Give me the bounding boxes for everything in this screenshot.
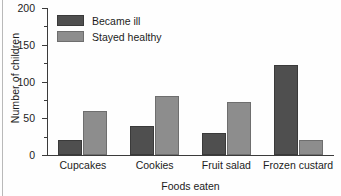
y-tick-100: 100 — [42, 82, 47, 83]
y-tick-label-50: 50 — [23, 113, 35, 124]
y-minor-tick-75 — [44, 100, 47, 101]
legend-item-stayed-healthy: Stayed healthy — [57, 30, 161, 43]
bar-cupcakes-stayed-healthy — [83, 111, 107, 155]
bar-fruit-salad-stayed-healthy — [227, 102, 251, 155]
y-tick-label-200: 200 — [17, 3, 35, 14]
y-minor-tick-175 — [44, 26, 47, 27]
legend-label-stayed-healthy: Stayed healthy — [92, 31, 161, 43]
y-minor-tick-25 — [44, 137, 47, 138]
legend-item-became-ill: Became ill — [57, 14, 161, 27]
legend-swatch-stayed-healthy — [57, 31, 84, 42]
x-label-cookies: Cookies — [136, 159, 174, 171]
bar-cookies-stayed-healthy — [155, 96, 179, 155]
y-tick-label-100: 100 — [17, 76, 35, 87]
x-label-frozen-custard: Frozen custard — [263, 159, 333, 171]
y-tick-50: 50 — [42, 118, 47, 119]
image-left-border — [2, 0, 3, 196]
y-tick-200: 200 — [42, 8, 47, 9]
bar-cupcakes-became-ill — [58, 140, 82, 155]
legend-label-became-ill: Became ill — [92, 15, 140, 27]
legend-swatch-became-ill — [57, 15, 84, 26]
bar-frozen-custard-stayed-healthy — [299, 140, 323, 155]
y-tick-0: 0 — [42, 155, 47, 156]
bar-cookies-became-ill — [130, 126, 154, 155]
y-minor-tick-125 — [44, 63, 47, 64]
x-axis-line — [47, 155, 334, 156]
x-label-cupcakes: Cupcakes — [60, 159, 107, 171]
bar-frozen-custard-became-ill — [274, 65, 298, 155]
x-label-fruit-salad: Fruit salad — [202, 159, 251, 171]
y-tick-label-0: 0 — [29, 150, 35, 161]
legend: Became ill Stayed healthy — [57, 14, 161, 46]
bar-chart-figure: Number of children 050100150200 Cupcakes… — [0, 0, 341, 196]
x-axis-title: Foods eaten — [47, 180, 334, 192]
bar-fruit-salad-became-ill — [202, 133, 226, 155]
y-axis-line — [47, 8, 48, 155]
y-tick-label-150: 150 — [17, 40, 35, 51]
y-tick-150: 150 — [42, 45, 47, 46]
